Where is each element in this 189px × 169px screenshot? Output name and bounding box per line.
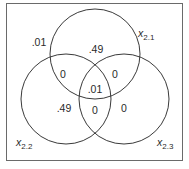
- region-only-x21-value: .49: [89, 44, 104, 55]
- region-x21-x23-value: 0: [112, 69, 118, 80]
- set-label-x23: x2.3: [157, 137, 173, 151]
- set-label-x21: x2.1: [138, 28, 154, 42]
- region-outside-value: .01: [32, 37, 47, 48]
- region-only-x23-value: 0: [121, 103, 127, 114]
- region-x22-x23-value: 0: [92, 105, 98, 116]
- region-only-x22-value: .49: [57, 103, 72, 114]
- region-all-three-value: .01: [88, 84, 103, 95]
- set-label-x22: x2.2: [16, 137, 32, 151]
- region-x21-x22-value: 0: [60, 69, 66, 80]
